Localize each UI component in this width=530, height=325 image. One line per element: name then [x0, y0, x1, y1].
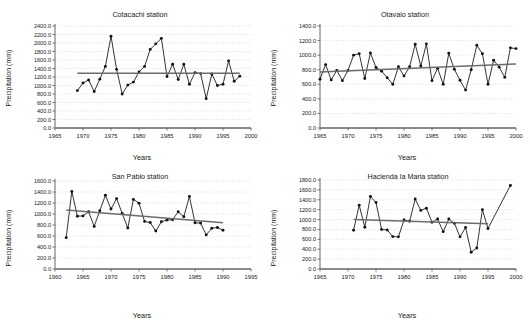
data-point [459, 79, 462, 82]
data-series-line [354, 185, 511, 252]
data-point [414, 43, 417, 46]
data-point [341, 79, 344, 82]
plot-area-2: 0.0200.0400.0600.0800.01000.01200.01400.… [34, 178, 258, 280]
y-tick-label: 1000.0 [299, 52, 316, 58]
x-tick-label: 1990 [454, 274, 467, 280]
chart-title-3: Hacienda la Maria station [367, 172, 448, 181]
data-point [98, 78, 101, 81]
data-point [194, 221, 197, 224]
data-point [391, 235, 394, 238]
data-point [363, 226, 366, 229]
data-point [171, 63, 174, 66]
data-series-line [66, 191, 223, 237]
y-tick-label: 2400.0 [34, 23, 51, 29]
x-tick-label: 1985 [161, 133, 174, 139]
chart-panel-hacienda-la-maria: Hacienda la Maria station Precipitation … [265, 165, 530, 325]
data-point [82, 214, 85, 217]
data-point [104, 65, 107, 68]
x-tick-label: 1965 [314, 133, 327, 139]
data-point [442, 83, 445, 86]
data-point [210, 227, 213, 230]
y-tick-label: 0.0 [308, 266, 316, 272]
data-point [386, 76, 389, 79]
data-point [503, 76, 506, 79]
x-tick-label: 1980 [161, 274, 174, 280]
x-tick-label: 2000 [510, 133, 523, 139]
y-tick-label: 0.0 [308, 125, 316, 131]
y-tick-label: 1000.0 [299, 217, 316, 223]
y-tick-label: 0.0 [43, 125, 51, 131]
data-point [481, 52, 484, 55]
data-point [436, 218, 439, 221]
chart-panel-cotacachi: Cotacachi station Precipitation (mm) Yea… [0, 0, 265, 165]
x-tick-label: 1995 [245, 274, 258, 280]
x-tick-label: 1970 [105, 274, 118, 280]
data-point [104, 194, 107, 197]
data-point [470, 251, 473, 254]
data-point [132, 198, 135, 201]
y-tick-label: 1600.0 [34, 57, 51, 63]
data-point [447, 218, 450, 221]
data-point [447, 52, 450, 55]
data-point [126, 84, 129, 87]
data-point [375, 66, 378, 69]
data-point [149, 48, 152, 51]
x-tick-label: 1970 [77, 133, 90, 139]
x-tick-label: 1970 [342, 133, 355, 139]
data-point [233, 80, 236, 83]
y-tick-label: 800.0 [37, 91, 51, 97]
data-point [358, 52, 361, 55]
x-tick-label: 1985 [426, 274, 439, 280]
y-tick-label: 400.0 [37, 244, 51, 250]
data-point [199, 222, 202, 225]
y-tick-label: 1800.0 [299, 177, 316, 183]
chart-title-0: Cotacachi station [112, 10, 167, 19]
data-point [177, 78, 180, 81]
y-tick-label: 800.0 [302, 67, 316, 73]
x-tick-label: 1980 [398, 133, 411, 139]
data-point [188, 195, 191, 198]
data-point [222, 229, 225, 232]
data-point [87, 79, 90, 82]
x-tick-label: 1965 [49, 133, 62, 139]
y-tick-label: 200.0 [37, 117, 51, 123]
data-point [487, 83, 490, 86]
chart-svg-0: Cotacachi station Precipitation (mm) Yea… [0, 0, 265, 165]
data-point [391, 83, 394, 86]
data-point [154, 42, 157, 45]
data-point [222, 83, 225, 86]
data-point [76, 215, 79, 218]
data-point [386, 228, 389, 231]
data-point [110, 208, 113, 211]
data-point [369, 52, 372, 55]
x-tick-label: 1975 [370, 274, 383, 280]
chart-title-2: San Pablo station [112, 172, 168, 181]
data-point [481, 208, 484, 211]
data-point [205, 233, 208, 236]
data-point [76, 89, 79, 92]
y-tick-label: 1000.0 [34, 83, 51, 89]
data-point [319, 78, 322, 81]
trend-line [320, 64, 516, 72]
chart-panel-san-pablo: San Pablo station Precipitation (mm) Yea… [0, 165, 265, 325]
x-tick-label: 1980 [398, 274, 411, 280]
x-tick-label: 1980 [133, 133, 146, 139]
data-point [177, 210, 180, 213]
data-point [238, 75, 241, 78]
y-tick-label: 1200.0 [299, 207, 316, 213]
data-point [425, 42, 428, 45]
y-tick-label: 800.0 [302, 226, 316, 232]
x-tick-label: 1990 [454, 133, 467, 139]
data-point [82, 82, 85, 85]
data-point [216, 226, 219, 229]
x-tick-label: 1975 [370, 133, 383, 139]
data-point [375, 201, 378, 204]
data-point [138, 202, 141, 205]
x-tick-label: 2000 [245, 133, 258, 139]
data-point [453, 68, 456, 71]
data-point [358, 204, 361, 207]
x-tick-label: 1960 [49, 274, 62, 280]
y-axis-label-1: Precipitation (mm) [270, 50, 278, 107]
data-point [352, 54, 355, 57]
x-tick-label: 1965 [314, 274, 327, 280]
